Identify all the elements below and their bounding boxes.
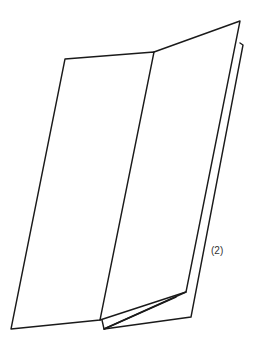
tri-fold-leaflet-diagram: (2) xyxy=(0,0,256,349)
left-panel xyxy=(11,52,154,329)
panel-label: (2) xyxy=(211,245,223,256)
back-panel-edge xyxy=(104,43,243,329)
